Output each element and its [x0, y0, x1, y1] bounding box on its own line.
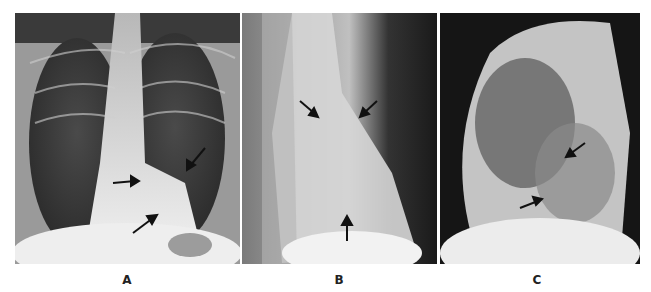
- xray-image-lateral: [440, 13, 640, 264]
- panel-label-c: C: [527, 273, 547, 287]
- xray-panel-b: [242, 13, 437, 264]
- xray-image-frontal: [15, 13, 240, 264]
- xray-panel-a: [15, 13, 240, 264]
- panel-label-a: A: [117, 273, 137, 287]
- panel-label-b: B: [329, 273, 349, 287]
- xray-image-oblique: [242, 13, 437, 264]
- xray-panel-c: [440, 13, 640, 264]
